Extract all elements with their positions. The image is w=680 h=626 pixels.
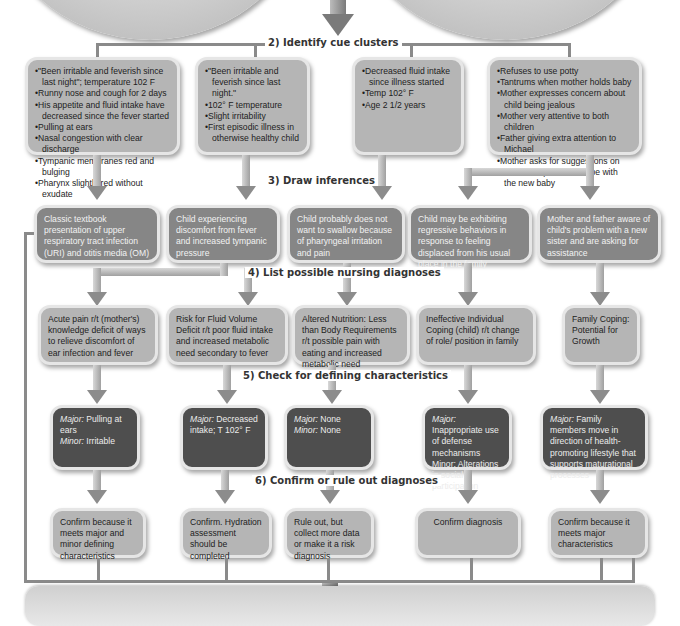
- inference-1: Classic textbook presentation of upper r…: [34, 205, 160, 263]
- bracket-drop: [254, 43, 257, 57]
- major-label: Major:: [432, 414, 456, 424]
- split-connector: [464, 168, 594, 176]
- cue-item: His appetite and fluid intake have decre…: [35, 100, 170, 122]
- characteristics-4: Major: Inappropriate use of defense mech…: [422, 405, 512, 470]
- arrow-down-icon: [458, 490, 478, 504]
- cue-item: "Been irritable and feverish since last …: [35, 66, 170, 88]
- arrow-stem: [242, 155, 250, 190]
- bottom-panel: [25, 586, 655, 626]
- cue-item: Runny nose and cough for 2 days: [35, 88, 170, 99]
- left-bracket: [24, 232, 27, 582]
- major-label: Major:: [60, 414, 84, 424]
- outcome-2: Confirm. Hydration assessment should be …: [180, 508, 272, 558]
- arrow-down-icon: [87, 186, 107, 200]
- arrow-down-icon: [322, 390, 342, 404]
- bracket-drop: [568, 43, 571, 57]
- diagnosis-3: Altered Nutrition: Less than Body Requir…: [292, 305, 410, 365]
- diagnosis-2: Risk for Fluid Volume Deficit r/t poor f…: [166, 305, 288, 365]
- diagnosis-5: Family Coping: Potential for Growth: [562, 305, 640, 365]
- bracket-drop: [632, 558, 635, 583]
- cue-cluster-1: "Been irritable and feverish since last …: [25, 57, 180, 155]
- arrow-down-icon: [217, 390, 237, 404]
- step-3-label: 3) Draw inferences: [265, 175, 378, 186]
- major-value: None: [320, 414, 341, 424]
- inference-5: Mother and father aware of child's probl…: [537, 205, 661, 263]
- bracket-drop: [225, 558, 228, 582]
- merge-connector: [93, 268, 228, 276]
- bracket-drop: [410, 43, 413, 57]
- minor-label: Minor:: [60, 436, 84, 446]
- inference-2: Child experiencing discomfort from fever…: [166, 205, 280, 263]
- minor-value: None: [320, 425, 341, 435]
- top-right-circle: [345, 0, 665, 40]
- cue-item: "Been irritable and feverish since last …: [205, 66, 300, 100]
- cue-item: Temp 102° F: [362, 88, 454, 99]
- arrow-stem: [220, 263, 228, 276]
- characteristics-1: Major: Pulling at ears Minor: Irritable: [50, 405, 140, 470]
- step-5-label: 5) Check for defining characteristics: [240, 370, 451, 381]
- arrow-down-icon: [458, 390, 478, 404]
- bracket-drop: [600, 558, 603, 582]
- cue-item: Tantrums when mother holds baby: [497, 77, 632, 88]
- characteristics-2: Major: Decreased intake; T 102° F: [180, 405, 268, 470]
- arrow-down-icon: [236, 186, 256, 200]
- cue-item: 102° F temperature: [205, 100, 300, 111]
- arrow-down-icon: [337, 292, 357, 306]
- cue-item: Nasal congestion with clear discharge: [35, 133, 170, 155]
- cue-item: Tympanic membranes red and bulging: [35, 156, 170, 178]
- outcome-3: Rule out, but collect more data or make …: [284, 508, 374, 558]
- arrow-down-icon: [215, 490, 235, 504]
- arrow-down-icon: [580, 186, 600, 200]
- bracket-drop: [470, 558, 473, 582]
- cue-cluster-3: Decreased fluid intake since illness sta…: [352, 57, 464, 155]
- characteristics-3: Major: None Minor: None: [284, 405, 374, 470]
- arrow-stem: [378, 155, 386, 190]
- arrow-down-icon: [590, 390, 610, 404]
- cue-item: Decreased fluid intake since illness sta…: [362, 66, 454, 88]
- outcome-4: Confirm diagnosis: [415, 508, 521, 558]
- arrow-down-icon: [238, 292, 258, 306]
- bracket-drop: [327, 558, 330, 582]
- major-value: Inappropriate use of defense mechanisms: [432, 425, 499, 457]
- cue-item: Mother very attentive to both children: [497, 111, 632, 133]
- cue-item: Mother expresses concern about child bei…: [497, 88, 632, 110]
- major-label: Major:: [190, 414, 214, 424]
- arrow-stem: [93, 155, 101, 190]
- bracket-drop: [96, 43, 99, 57]
- arrow-down-icon: [458, 186, 478, 200]
- diagnosis-1: Acute pain r/t (mother's) knowledge defi…: [38, 305, 158, 365]
- inference-3: Child probably does not want to swallow …: [287, 205, 405, 263]
- major-label: Major:: [550, 414, 574, 424]
- arrow-down-icon: [87, 490, 107, 504]
- cue-item: Refuses to use potty: [497, 66, 632, 77]
- outcome-5: Confirm because it meets major character…: [548, 508, 648, 558]
- step-4-label: 4) List possible nursing diagnoses: [245, 267, 444, 278]
- step-6-label: 6) Confirm or rule out diagnoses: [252, 475, 441, 486]
- cue-cluster-4: Refuses to use potty Tantrums when mothe…: [487, 57, 642, 155]
- arrow-down-icon: [590, 292, 610, 306]
- diagnosis-4: Ineffective Individual Coping (child) r/…: [416, 305, 536, 365]
- major-label: Major:: [294, 414, 318, 424]
- arrow-down-icon: [87, 292, 107, 306]
- arrow-down-icon: [590, 490, 610, 504]
- step-2-label: 2) Identify cue clusters: [265, 37, 402, 48]
- cue-item: First episodic illness in otherwise heal…: [205, 122, 300, 144]
- arrow-down-icon: [320, 490, 340, 504]
- arrow-down-icon: [372, 186, 392, 200]
- minor-label: Minor:: [432, 459, 456, 469]
- bracket-drop: [97, 558, 100, 582]
- minor-value: Irritable: [86, 436, 115, 446]
- cue-item: Age 2 1/2 years: [362, 100, 454, 111]
- cue-item: Father giving extra attention to Michael: [497, 133, 632, 155]
- cue-item: Pulling at ears: [35, 122, 170, 133]
- minor-label: Minor:: [294, 425, 318, 435]
- cue-item: Slight irritability: [205, 111, 300, 122]
- arrow-down-icon: [322, 14, 354, 36]
- arrow-down-icon: [458, 292, 478, 306]
- cue-cluster-2: "Been irritable and feverish since last …: [195, 57, 310, 155]
- inference-4: Child may be exhibiting regressive behav…: [408, 205, 532, 263]
- characteristics-5: Major: Family members move in direction …: [540, 405, 648, 470]
- left-bracket-top: [24, 232, 34, 235]
- top-left-circle: [0, 0, 310, 40]
- arrow-stem: [586, 155, 594, 190]
